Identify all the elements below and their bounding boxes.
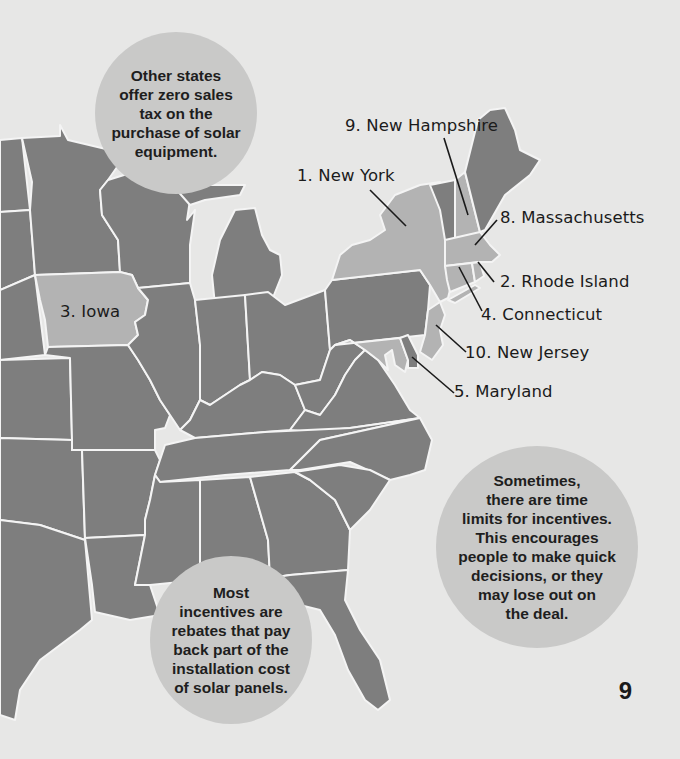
leader-rhode-island [478,262,494,282]
label-new-york: 1. New York [297,166,395,185]
leader-massachusetts [475,220,497,245]
leader-new-jersey [436,325,466,352]
info-bubble-time-limits: Sometimes, there are time limits for inc… [436,446,638,648]
label-maryland: 5. Maryland [454,382,553,401]
leader-connecticut [459,267,482,311]
label-rhode-island: 2. Rhode Island [500,272,629,291]
label-massachusetts: 8. Massachusetts [500,208,645,227]
leader-new-york [370,190,406,226]
info-bubble-sales-tax-text: Other states offer zero sales tax on the… [111,66,240,161]
page-number: 9 [619,677,632,705]
leader-new-hampshire [444,138,468,215]
label-new-jersey: 10. New Jersey [465,343,589,362]
info-bubble-time-limits-text: Sometimes, there are time limits for inc… [458,471,616,623]
info-bubble-rebates: Most incentives are rebates that pay bac… [150,556,312,724]
info-bubble-sales-tax: Other states offer zero sales tax on the… [95,32,257,194]
leader-maryland [412,357,454,393]
label-new-hampshire: 9. New Hampshire [345,116,498,135]
label-iowa: 3. Iowa [60,302,120,321]
info-bubble-rebates-text: Most incentives are rebates that pay bac… [172,583,291,697]
label-connecticut: 4. Connecticut [481,305,602,324]
